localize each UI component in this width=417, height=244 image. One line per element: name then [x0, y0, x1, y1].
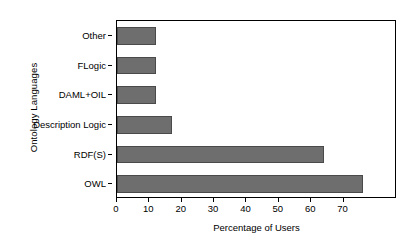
x-tick-label: 40 [240, 203, 251, 214]
y-tick-mark [108, 94, 112, 95]
x-tick-mark [181, 198, 182, 202]
x-tick-mark [310, 198, 311, 202]
x-tick-mark [245, 198, 246, 202]
y-tick-mark [108, 154, 112, 155]
y-tick-label: Description Logic [33, 118, 106, 129]
x-tick-label: 30 [208, 203, 219, 214]
y-tick-mark [108, 65, 112, 66]
x-tick-mark [278, 198, 279, 202]
y-axis-tick-labels: OWLRDF(S)Description LogicDAML+OILFLogic… [0, 20, 112, 198]
x-tick-label: 50 [273, 203, 284, 214]
bar-daml-oil [117, 86, 156, 104]
bar-chart: Ontology Languages OWLRDF(S)Description … [0, 0, 417, 244]
x-tick-mark [116, 198, 117, 202]
y-tick-label: DAML+OIL [59, 89, 106, 100]
bar-rdf-s [117, 146, 324, 164]
y-tick-label: RDF(S) [74, 148, 106, 159]
y-tick-mark [108, 124, 112, 125]
y-tick-label: OWL [84, 178, 106, 189]
x-tick-label: 20 [175, 203, 186, 214]
x-tick-mark [213, 198, 214, 202]
y-tick-label: Other [82, 29, 106, 40]
y-tick-mark [108, 183, 112, 184]
x-tick-label: 70 [337, 203, 348, 214]
y-tick-label: FLogic [77, 59, 106, 70]
x-axis-title: Percentage of Users [116, 222, 397, 233]
x-tick-label: 0 [113, 203, 118, 214]
plot-area [116, 20, 396, 198]
x-tick-label: 60 [305, 203, 316, 214]
x-tick-mark [148, 198, 149, 202]
x-tick-mark [343, 198, 344, 202]
y-tick-mark [108, 35, 112, 36]
bar-other [117, 27, 156, 45]
bar-owl [117, 175, 363, 193]
bar-flogic [117, 57, 156, 75]
x-axis-ticks: 010203040506070 [116, 198, 397, 218]
x-tick-label: 10 [143, 203, 154, 214]
bar-description-logic [117, 116, 172, 134]
